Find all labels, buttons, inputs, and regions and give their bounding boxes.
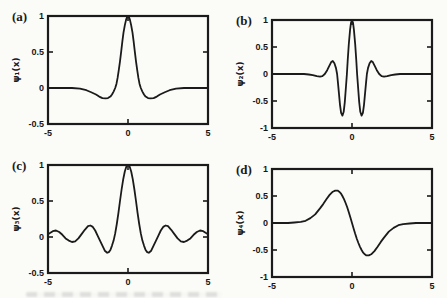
subplot-a-axes: -50510.50-0.5 — [0, 0, 223, 149]
wavelet-curve — [272, 20, 432, 116]
x-tick-label: 5 — [205, 128, 210, 138]
x-tick-label: -5 — [44, 277, 52, 287]
x-tick-label: 5 — [429, 132, 434, 142]
y-tick-label: 1 — [39, 11, 44, 21]
y-tick-label: 1 — [39, 160, 44, 170]
x-tick-label: 0 — [125, 277, 130, 287]
subplot-a: (a) ψ₁(x) -50510.50-0.5 — [0, 0, 223, 149]
subplot-c: (c) ψ₃(x) -50510.50-0.5 — [0, 149, 223, 298]
y-tick-label: -1 — [260, 123, 268, 133]
y-tick-label: -0.5 — [252, 245, 268, 255]
wavelet-curve — [48, 165, 208, 253]
x-tick-label: 5 — [429, 281, 434, 291]
x-tick-label: 0 — [125, 128, 130, 138]
x-tick-label: 0 — [349, 132, 354, 142]
x-tick-label: -5 — [268, 132, 276, 142]
x-tick-label: -5 — [268, 281, 276, 291]
subplot-b: (b) ψ₂(x) -50510.50-0.5-1 — [224, 4, 447, 153]
subplot-b-axes: -50510.50-0.5-1 — [224, 4, 447, 153]
y-tick-label: 0 — [263, 218, 268, 228]
y-tick-label: 0.5 — [255, 42, 268, 52]
caption-remnant — [26, 292, 222, 297]
wavelet-figure: (a) ψ₁(x) -50510.50-0.5 (b) ψ₂(x) -50510… — [0, 0, 447, 298]
subplot-c-axes: -50510.50-0.5 — [0, 149, 223, 298]
y-tick-label: 0.5 — [255, 191, 268, 201]
y-tick-label: 0 — [39, 83, 44, 93]
x-tick-label: -5 — [44, 128, 52, 138]
y-tick-label: 0 — [39, 232, 44, 242]
subplot-d: (d) ψ₄(x) -50510.50-0.5-1 — [224, 153, 447, 298]
subplot-d-axes: -50510.50-0.5-1 — [224, 153, 447, 298]
x-tick-label: 0 — [349, 281, 354, 291]
y-tick-label: 0 — [263, 69, 268, 79]
axes-box — [48, 16, 208, 124]
y-tick-label: 0.5 — [31, 196, 44, 206]
y-tick-label: -0.5 — [28, 268, 44, 278]
x-tick-label: 5 — [205, 277, 210, 287]
y-tick-label: -0.5 — [252, 96, 268, 106]
wavelet-curve — [272, 191, 432, 256]
y-tick-label: 0.5 — [31, 47, 44, 57]
y-tick-label: -0.5 — [28, 119, 44, 129]
wavelet-curve — [48, 16, 208, 98]
y-tick-label: 1 — [263, 164, 268, 174]
axes-box — [48, 165, 208, 273]
y-tick-label: 1 — [263, 15, 268, 25]
y-tick-label: -1 — [260, 272, 268, 282]
